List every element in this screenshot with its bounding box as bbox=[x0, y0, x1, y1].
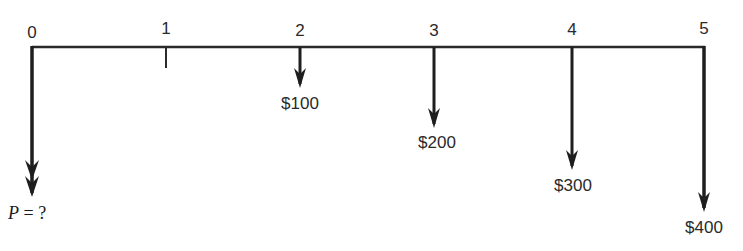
present-value-unknown: ? bbox=[38, 203, 46, 223]
present-value-symbol: P bbox=[8, 203, 19, 223]
cash-flow-arrow-icon-period-4 bbox=[566, 47, 578, 170]
cash-flow-arrow-icon-period-3 bbox=[428, 47, 440, 128]
cash-flow-amount-period-4: $300 bbox=[554, 177, 592, 194]
period-label-1: 1 bbox=[161, 20, 170, 37]
cash-flow-diagram: 0 1 2 3 4 5 $100 $200 $300 $400 P = ? bbox=[0, 0, 743, 251]
cash-flow-amount-period-3: $200 bbox=[418, 134, 456, 151]
equals-sign: = bbox=[24, 203, 34, 223]
present-value-arrow-icon bbox=[25, 46, 39, 197]
present-value-label: P = ? bbox=[8, 204, 46, 222]
cash-flow-amount-period-2: $100 bbox=[281, 95, 319, 112]
cash-flow-arrow-icon-period-2 bbox=[294, 47, 306, 88]
period-label-0: 0 bbox=[27, 24, 36, 41]
period-label-3: 3 bbox=[429, 22, 438, 39]
period-label-5: 5 bbox=[699, 20, 708, 37]
timeline-graphic bbox=[0, 0, 743, 251]
period-label-2: 2 bbox=[295, 22, 304, 39]
cash-flow-amount-period-5: $400 bbox=[685, 219, 723, 236]
period-label-4: 4 bbox=[567, 21, 576, 38]
cash-flow-arrow-icon-period-5 bbox=[698, 46, 710, 212]
